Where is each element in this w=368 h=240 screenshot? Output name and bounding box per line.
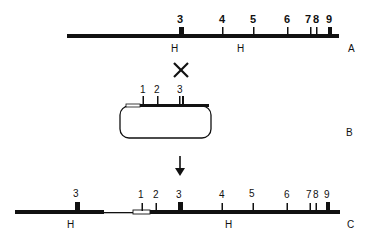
marker-c-5-tick (253, 203, 255, 211)
arrow-down-icon (175, 156, 185, 176)
marker-a-3-label: 3 (177, 14, 183, 24)
chromosome-a (67, 34, 339, 38)
marker-c-7-label: 7 (306, 190, 312, 200)
cross-icon (174, 63, 188, 77)
marker-c-8-tick (316, 203, 318, 211)
row-label-c: C (347, 220, 354, 230)
marker-a-7-tick (310, 27, 312, 35)
marker-b-1-label: 1 (140, 85, 146, 95)
marker-c-2-tick (156, 203, 158, 211)
plasmid-b-top-dark (140, 104, 209, 107)
row-label-b: B (346, 128, 353, 138)
h-label-a-2: H (237, 44, 244, 54)
marker-b-2-tick (157, 96, 159, 105)
plasmid-b-body (120, 106, 211, 138)
marker-a-5-tick (253, 27, 255, 35)
marker-c-4-tick (222, 203, 224, 211)
marker-a-6-tick (287, 27, 289, 35)
marker-c-8-label: 8 (313, 190, 319, 200)
marker-a-6-label: 6 (284, 14, 290, 24)
marker-a-9-block (328, 27, 332, 36)
marker-c-2-label: 2 (153, 190, 159, 200)
marker-c-3-left-block (75, 202, 80, 212)
marker-c-6-tick (287, 203, 289, 211)
marker-c-3-block (178, 202, 183, 212)
marker-c-5-label: 5 (249, 189, 255, 199)
marker-b-3-left (179, 96, 181, 107)
marker-c-6-label: 6 (284, 190, 290, 200)
marker-a-9-label: 9 (326, 14, 332, 24)
marker-b-1-tick (143, 96, 145, 105)
chromosome-c-thin (104, 212, 133, 213)
row-label-a: A (348, 44, 355, 54)
marker-a-8-label: 8 (313, 14, 319, 24)
marker-a-4-tick (222, 27, 224, 35)
marker-a-7-label: 7 (305, 14, 311, 24)
marker-a-4-label: 4 (219, 14, 225, 24)
marker-b-3-label: 3 (177, 85, 183, 95)
h-label-a-1: H (171, 44, 178, 54)
plasmid-b-open-segment (126, 104, 140, 107)
marker-c-9-label: 9 (324, 190, 330, 200)
marker-c-3-label: 3 (176, 190, 182, 200)
marker-a-8-tick (316, 27, 318, 35)
marker-c-4-label: 4 (219, 190, 225, 200)
marker-a-5-label: 5 (250, 14, 256, 24)
marker-c-1-tick (142, 203, 144, 211)
chromosome-c-left (15, 210, 104, 214)
marker-c-9-block (326, 202, 330, 212)
marker-c-7-tick (310, 203, 312, 211)
h-label-c-2: H (225, 220, 232, 230)
marker-c-1-label: 1 (138, 190, 144, 200)
h-label-c-1: H (67, 220, 74, 230)
marker-a-3-block (179, 27, 184, 36)
diagram-graphics (0, 0, 368, 240)
marker-c-3-left-label: 3 (73, 189, 79, 199)
marker-b-2-label: 2 (154, 85, 160, 95)
marker-b-3-right (182, 96, 184, 107)
